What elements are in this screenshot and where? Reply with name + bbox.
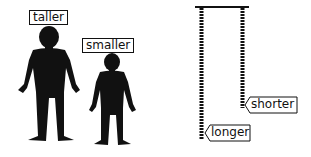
taller-label: taller (29, 10, 68, 25)
tall-person-silhouette (18, 26, 80, 141)
short-person-silhouette (89, 53, 136, 145)
longer-tag-label: longer (211, 126, 249, 139)
smaller-label: smaller (82, 38, 134, 53)
shorter-tag-label: shorter (251, 98, 294, 111)
hanging-bar (195, 6, 249, 8)
